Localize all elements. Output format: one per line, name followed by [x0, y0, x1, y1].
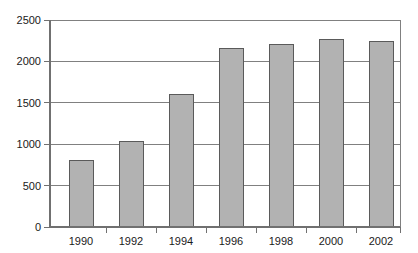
bar-1998 — [269, 45, 293, 227]
bar-1990 — [69, 161, 93, 227]
y-axis-label-1000: 1000 — [17, 138, 41, 150]
y-axis-labels: 2500 2000 1500 1000 500 0 — [17, 14, 41, 233]
x-axis-label-1994: 1994 — [169, 235, 193, 247]
y-axis-label-500: 500 — [23, 180, 41, 192]
y-axis-label-2500: 2500 — [17, 14, 41, 26]
y-tick-marks — [44, 20, 50, 227]
y-axis-label-1500: 1500 — [17, 97, 41, 109]
bar-1992 — [119, 142, 143, 227]
x-axis-label-2002: 2002 — [369, 235, 393, 247]
x-axis-label-1998: 1998 — [269, 235, 293, 247]
x-axis-label-2000: 2000 — [319, 235, 343, 247]
bar-1996 — [219, 49, 243, 227]
y-axis-label-2000: 2000 — [17, 55, 41, 67]
x-axis-label-1996: 1996 — [219, 235, 243, 247]
chart-canvas: 2500 2000 1500 1000 500 0 1990 1992 1994… — [0, 0, 418, 253]
x-axis-label-1992: 1992 — [119, 235, 143, 247]
x-axis-label-1990: 1990 — [69, 235, 93, 247]
y-axis-label-0: 0 — [35, 221, 41, 233]
bar-2002 — [369, 41, 393, 227]
bar-chart: 2500 2000 1500 1000 500 0 1990 1992 1994… — [0, 0, 418, 253]
bar-2000 — [319, 40, 343, 227]
bar-1994 — [169, 95, 193, 227]
x-axis-labels: 1990 1992 1994 1996 1998 2000 2002 — [69, 235, 393, 247]
x-tick-marks — [106, 227, 400, 233]
